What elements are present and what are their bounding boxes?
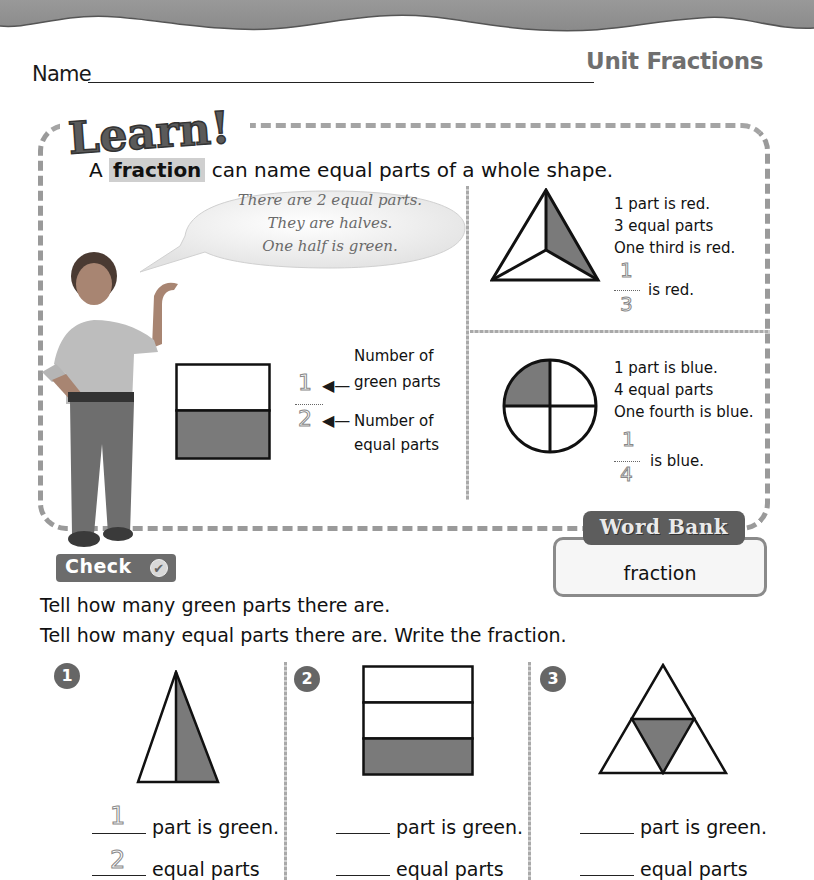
exercise-divider: [284, 662, 287, 880]
fraction-bar: [614, 290, 640, 291]
header-wave-band: [0, 0, 814, 40]
line-suffix: equal parts: [640, 858, 748, 880]
bubble-line: There are 2 equal parts.: [200, 189, 460, 212]
word-bank-title: Word Bank: [583, 511, 745, 545]
exercise-3-green-parts: part is green.: [580, 816, 767, 838]
instruction-2: Tell how many equal parts there are. Wri…: [40, 624, 567, 646]
name-field[interactable]: [88, 82, 594, 83]
thirds-line: 1 part is red.: [614, 193, 735, 215]
thirds-line: One third is red.: [614, 237, 735, 259]
traced-answer: 1: [110, 802, 125, 830]
name-label: Name: [32, 62, 91, 86]
vertical-divider: [466, 186, 469, 500]
checkmark-icon: ✔: [150, 559, 168, 577]
answer-blank[interactable]: [580, 832, 634, 834]
halves-denominator: 2: [298, 406, 312, 431]
boy-photo: [26, 244, 186, 554]
label-line: green parts: [354, 372, 441, 392]
fourths-denominator: 4: [620, 462, 633, 486]
label-line: Number of: [354, 346, 441, 366]
check-label: Check: [65, 555, 132, 577]
keyword-fraction: fraction: [109, 158, 205, 182]
fourths-text: 1 part is blue. 4 equal parts One fourth…: [614, 357, 754, 423]
line-suffix: part is green.: [396, 816, 523, 838]
exercise-1-green-parts: 1 part is green.: [92, 816, 279, 838]
instruction-1: Tell how many green parts there are.: [40, 594, 390, 616]
halves-numerator: 1: [298, 370, 312, 395]
fourths-suffix: is blue.: [650, 450, 704, 472]
line-suffix: part is green.: [640, 816, 767, 838]
fourths-line: 4 equal parts: [614, 379, 754, 401]
thirds-denominator: 3: [620, 292, 633, 316]
arrow-left-icon: ◀—: [322, 411, 350, 430]
bubble-line: They are halves.: [200, 212, 460, 235]
thirds-triangle: [490, 188, 602, 284]
intro-prefix: A: [89, 158, 103, 182]
page-title: Unit Fractions: [586, 48, 763, 74]
exercise-divider: [528, 662, 531, 880]
learn-logo: Learn!: [60, 100, 250, 156]
fourths-line: One fourth is blue.: [614, 401, 754, 423]
speech-bubble-text: There are 2 equal parts. They are halves…: [200, 189, 460, 258]
exercise-1-triangle: [136, 670, 220, 784]
line-suffix: equal parts: [152, 858, 260, 880]
label-line: equal parts: [354, 435, 439, 455]
answer-blank[interactable]: [336, 832, 390, 834]
check-banner: Check ✔: [56, 554, 176, 582]
intro-suffix: can name equal parts of a whole shape.: [212, 158, 613, 182]
line-suffix: equal parts: [396, 858, 504, 880]
horizontal-divider: [470, 330, 770, 333]
thirds-suffix: is red.: [648, 279, 694, 301]
answer-blank[interactable]: [336, 874, 390, 876]
fourths-numerator: 1: [622, 427, 635, 451]
thirds-line: 3 equal parts: [614, 215, 735, 237]
label-line: Number of: [354, 411, 439, 431]
intro-sentence: A fraction can name equal parts of a who…: [89, 158, 613, 182]
fourths-circle: [502, 358, 598, 454]
exercise-number-badge: 3: [540, 666, 566, 692]
arrow-left-icon: ◀—: [322, 376, 350, 395]
exercise-2-green-parts: part is green.: [336, 816, 523, 838]
bubble-line: One half is green.: [200, 235, 460, 258]
answer-blank[interactable]: [580, 874, 634, 876]
exercise-3-triangle: [598, 663, 728, 775]
thirds-text: 1 part is red. 3 equal parts One third i…: [614, 193, 735, 259]
exercise-1-equal-parts: 2 equal parts: [92, 858, 260, 880]
exercise-2-equal-parts: equal parts: [336, 858, 504, 880]
fraction-bar: [295, 404, 323, 405]
traced-answer: 2: [110, 846, 125, 874]
denominator-label: Number of equal parts: [354, 411, 439, 455]
exercise-2-rectangle: [362, 665, 474, 777]
halves-rectangle: [175, 363, 271, 461]
exercise-number-badge: 2: [294, 666, 320, 692]
exercise-3-equal-parts: equal parts: [580, 858, 748, 880]
answer-blank[interactable]: 2: [92, 874, 146, 876]
line-suffix: part is green.: [152, 816, 279, 838]
numerator-label: Number of green parts: [354, 346, 441, 392]
thirds-numerator: 1: [620, 258, 633, 282]
word-bank-word: fraction: [553, 562, 767, 584]
exercise-number-badge: 1: [54, 663, 80, 689]
svg-text:Learn!: Learn!: [67, 101, 232, 156]
fourths-line: 1 part is blue.: [614, 357, 754, 379]
answer-blank[interactable]: 1: [92, 832, 146, 834]
